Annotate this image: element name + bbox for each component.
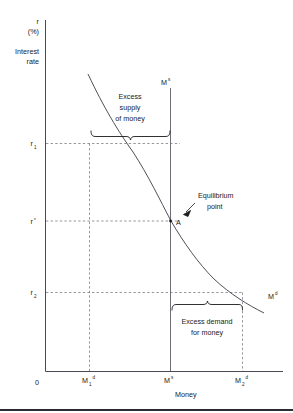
- excess-supply-line2: supply: [120, 103, 141, 112]
- clipped-header-text: [35, 0, 245, 5]
- money-demand-curve-group: M d: [88, 74, 278, 313]
- x-axis-title: Money: [175, 390, 197, 399]
- excess-demand-line2: for money: [191, 328, 223, 337]
- excess-demand-annotation: Excess demand for money: [172, 301, 243, 337]
- money-demand-label: M: [268, 292, 274, 301]
- y-axis-title-percent: (%): [28, 27, 39, 36]
- excess-supply-brace: [91, 131, 170, 140]
- x-tick-sup-m2d: d: [246, 375, 249, 380]
- equilibrium-annotation: Equilibrium point A: [169, 191, 233, 227]
- y-tick-labels-group: r 1 r * r 2: [31, 139, 37, 299]
- money-market-figure: r (%) Interest rate M s M: [0, 0, 293, 413]
- y-tick-sub-r2: 2: [34, 294, 37, 299]
- x-tick-labels-group: 0 M 1 d M s M 2 d: [35, 375, 249, 387]
- excess-demand-line1: Excess demand: [181, 317, 232, 326]
- excess-demand-brace: [172, 301, 243, 310]
- equilibrium-point-marker: [169, 220, 172, 223]
- x-tick-label-m1d: M: [82, 376, 88, 385]
- x-tick-label-ms: M: [164, 376, 170, 385]
- money-market-chart: r (%) Interest rate M s M: [0, 0, 293, 413]
- excess-supply-line3: of money: [115, 114, 145, 123]
- equilibrium-line2: point: [207, 202, 223, 211]
- x-tick-sup-ms: s: [171, 375, 174, 380]
- x-tick-sup-m1d: d: [93, 375, 96, 380]
- y-axis-title-r: r: [37, 17, 40, 26]
- money-demand-label-superscript: d: [275, 291, 278, 296]
- x-tick-sub-m2d: 2: [242, 382, 245, 387]
- axes-group: [46, 20, 284, 372]
- money-supply-label-superscript: s: [168, 77, 171, 82]
- equilibrium-line1: Equilibrium: [198, 191, 234, 200]
- money-supply-line-group: M s: [161, 77, 171, 371]
- x-tick-label-m2d: M: [235, 376, 241, 385]
- money-supply-label: M: [161, 78, 167, 87]
- x-tick-sub-m1d: 1: [89, 382, 92, 387]
- y-axis-caption-interest: Interest: [15, 47, 39, 56]
- y-axis-title: r (%) Interest rate: [15, 17, 40, 66]
- money-demand-curve: [88, 74, 264, 313]
- excess-supply-annotation: Excess supply of money: [91, 92, 170, 140]
- origin-label: 0: [35, 378, 39, 387]
- y-tick-sup-rstar: *: [34, 218, 36, 223]
- y-tick-sub-r1: 1: [34, 145, 37, 150]
- excess-supply-line1: Excess: [118, 92, 142, 101]
- axis-lines: [46, 20, 284, 372]
- y-axis-caption-rate: rate: [27, 57, 39, 66]
- equilibrium-point-label: A: [176, 218, 181, 227]
